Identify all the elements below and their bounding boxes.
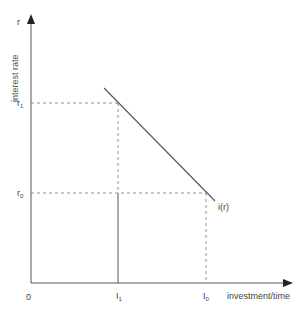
investment-curve xyxy=(104,88,215,201)
x-axis-label: investment/time xyxy=(227,292,290,301)
y-axis-label: interest rate xyxy=(10,54,20,102)
tick-r1: r1 xyxy=(17,99,23,109)
origin-label: 0 xyxy=(26,293,31,302)
tick-i1: I1 xyxy=(116,292,122,302)
tick-i0: I0 xyxy=(203,292,209,302)
curve-label: i(r) xyxy=(218,203,229,212)
y-axis-symbol: r xyxy=(17,18,20,27)
tick-r0: r0 xyxy=(17,189,23,199)
y-axis-arrow-icon xyxy=(27,14,35,24)
x-axis-arrow-icon xyxy=(283,279,293,287)
investment-demand-diagram xyxy=(0,0,305,313)
